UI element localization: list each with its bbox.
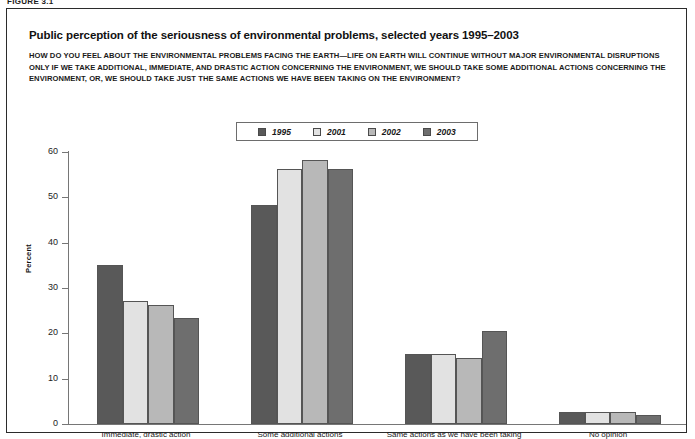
legend-item-2002[interactable]: 2002 <box>368 127 401 137</box>
bar-2001-2 <box>277 169 303 424</box>
legend-swatch-icon <box>423 128 431 136</box>
y-axis-tick: 0 <box>62 424 69 425</box>
legend-item-2001[interactable]: 2001 <box>313 127 346 137</box>
bar-1995-2 <box>251 205 277 424</box>
bar-2001-1 <box>123 301 149 424</box>
legend-swatch-icon <box>258 128 266 136</box>
y-axis-tick: 30 <box>62 288 69 289</box>
y-axis-tick-label: 20 <box>48 327 58 337</box>
bar-2003-1 <box>174 318 200 424</box>
bar-1995-1 <box>97 265 123 424</box>
legend-label: 1995 <box>272 127 291 137</box>
bar-2002-2 <box>302 160 328 424</box>
y-axis-tick-label: 0 <box>53 418 58 428</box>
y-axis-tick: 20 <box>62 333 69 334</box>
bar-2002-1 <box>148 305 174 424</box>
x-axis-line <box>68 424 686 425</box>
legend-swatch-icon <box>313 128 321 136</box>
legend-item-2003[interactable]: 2003 <box>423 127 456 137</box>
y-axis-tick: 40 <box>62 243 69 244</box>
y-axis-tick-label: 50 <box>48 191 58 201</box>
legend-item-1995[interactable]: 1995 <box>258 127 291 137</box>
x-axis-group-label: Some additional actions <box>223 430 377 439</box>
legend-label: 2003 <box>437 127 456 137</box>
bar-2002-4 <box>610 412 636 424</box>
legend-label: 2002 <box>382 127 401 137</box>
x-axis-group-label: Immediate, drastic action <box>69 430 223 439</box>
bar-2003-4 <box>636 415 662 424</box>
page-title: Public perception of the seriousness of … <box>29 29 519 41</box>
y-axis-tick-label: 30 <box>48 282 58 292</box>
bar-2003-3 <box>482 331 508 424</box>
y-axis-tick: 10 <box>62 379 69 380</box>
survey-question-text: HOW DO YOU FEEL ABOUT THE ENVIRONMENTAL … <box>29 50 679 85</box>
bar-2001-4 <box>585 412 611 424</box>
legend-label: 2001 <box>327 127 346 137</box>
chart-legend: 1995200120022003 <box>236 122 478 141</box>
y-axis-tick: 60 <box>62 152 69 153</box>
bar-2003-2 <box>328 169 354 424</box>
y-axis-tick-label: 10 <box>48 373 58 383</box>
bar-2002-3 <box>456 358 482 424</box>
x-axis-group-label: No opinion <box>531 430 685 439</box>
figure-frame: Public perception of the seriousness of … <box>6 8 687 433</box>
figure-number-label: FIGURE 3.1 <box>7 0 54 6</box>
bar-1995-4 <box>559 412 585 424</box>
y-axis-tick-label: 40 <box>48 237 58 247</box>
bar-2001-3 <box>431 354 457 424</box>
x-axis-group-label: Same actions as we have been taking <box>377 430 531 439</box>
plot-area <box>69 152 685 424</box>
legend-swatch-icon <box>368 128 376 136</box>
y-axis-tick: 50 <box>62 197 69 198</box>
y-axis-title: Percent <box>24 244 33 273</box>
y-axis-tick-label: 60 <box>48 146 58 156</box>
bar-1995-3 <box>405 354 431 424</box>
